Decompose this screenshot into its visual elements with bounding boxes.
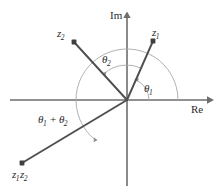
- real-axis-label: Re: [191, 104, 203, 115]
- imaginary-axis-label: Im: [110, 10, 122, 21]
- complex-plane-figure: Im Re z1 z2 z1z2 θ1 θ2 θ1 + θ2: [0, 0, 221, 189]
- point-label-z2-subscript: 2: [61, 33, 65, 42]
- angle-label-theta2-subscript: 2: [107, 59, 111, 68]
- point-label-z1: z1: [152, 27, 160, 38]
- angle-label-theta2: θ2: [102, 54, 111, 65]
- axis-group: [10, 12, 214, 187]
- theta1-plus-theta2-arc-tick: [94, 138, 98, 143]
- angle-label-theta1-subscript: 1: [149, 88, 153, 97]
- vector-group: [22, 41, 153, 163]
- point-marker-z2: [72, 40, 77, 45]
- point-marker-z1: [151, 39, 156, 44]
- point-label-z2: z2: [57, 28, 65, 39]
- point-marker-z1z2: [20, 161, 25, 166]
- angle-label-theta1-plus-theta2: θ1 + θ2: [38, 114, 68, 125]
- angle-label-sum-operator: +: [47, 113, 59, 125]
- point-label-z1z2: z1z2: [12, 169, 28, 180]
- point-label-z1-subscript: 1: [156, 32, 160, 41]
- real-axis-arrowhead: [207, 96, 214, 104]
- angle-label-sum-subscript-second: 2: [64, 119, 68, 128]
- point-label-z1z2-subscript-first: 1: [16, 174, 20, 183]
- angle-label-sum-subscript-first: 1: [43, 119, 47, 128]
- vector-z2-line: [74, 42, 127, 100]
- vector-z1z2-line: [22, 100, 127, 163]
- imaginary-axis-arrowhead: [123, 12, 130, 19]
- angle-label-theta1: θ1: [144, 83, 153, 94]
- figure-canvas: [0, 0, 221, 189]
- point-label-z1z2-subscript-second: 2: [24, 174, 28, 183]
